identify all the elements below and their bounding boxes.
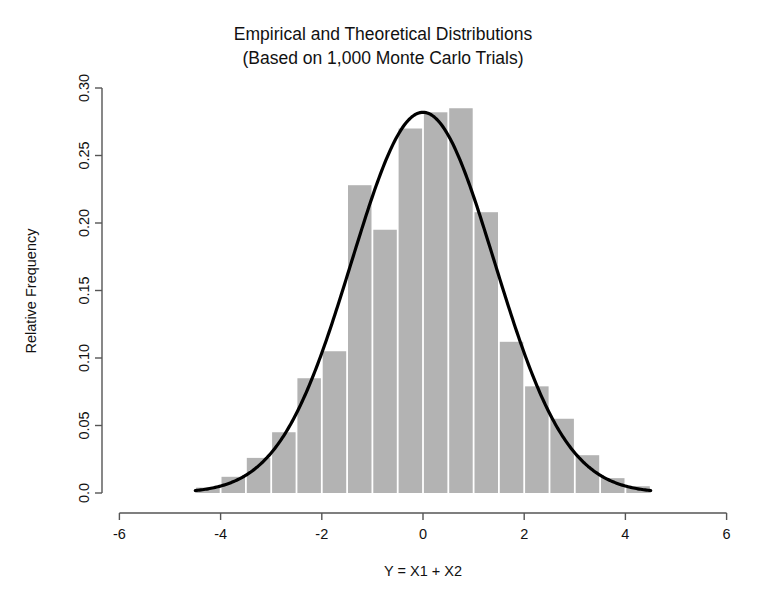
y-axis-title: Relative Frequency <box>23 228 39 354</box>
y-axis-tick-label: 0.25 <box>76 141 92 169</box>
histogram-bar <box>550 419 574 493</box>
x-axis-tick-label: 0 <box>419 526 427 542</box>
y-axis-tick-label: 0.05 <box>76 411 92 439</box>
chart-title-line-1: Empirical and Theoretical Distributions <box>234 24 533 44</box>
y-axis-tick-label: 0.0 <box>76 483 92 503</box>
histogram-bar <box>475 212 499 493</box>
x-axis-tick-label: -4 <box>214 526 227 542</box>
histogram-bar <box>272 432 296 493</box>
figure-container: Empirical and Theoretical Distributions … <box>0 0 767 598</box>
distribution-chart: Empirical and Theoretical Distributions … <box>0 0 767 598</box>
histogram-bar <box>500 342 524 493</box>
chart-title-line-2: (Based on 1,000 Monte Carlo Trials) <box>242 48 523 68</box>
x-axis-tick-label: 6 <box>723 526 731 542</box>
histogram-bar <box>297 378 321 493</box>
x-axis-tick-label: 4 <box>621 526 629 542</box>
x-axis-tick-label: 2 <box>520 526 528 542</box>
x-axis-title: Y = X1 + X2 <box>384 563 462 579</box>
y-axis-tick-label: 0.10 <box>76 344 92 372</box>
y-axis-tick-label: 0.20 <box>76 209 92 237</box>
x-axis-tick-label: -6 <box>113 526 126 542</box>
histogram-bar <box>247 458 270 493</box>
y-axis-tick-label: 0.30 <box>76 74 92 102</box>
histogram-bar <box>424 112 448 493</box>
y-axis-tick-label: 0.15 <box>76 276 92 304</box>
histogram-bar <box>373 230 397 493</box>
histogram-bar <box>323 351 347 493</box>
histogram-bar <box>399 129 423 494</box>
x-axis-tick-label: -2 <box>315 526 328 542</box>
